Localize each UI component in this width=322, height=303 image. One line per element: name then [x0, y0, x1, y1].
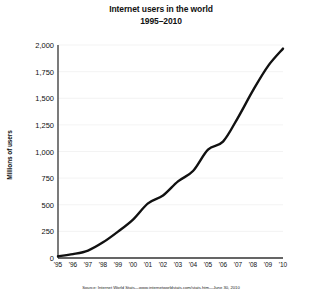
y-tick-label: 750 [14, 174, 54, 183]
y-tick-label: 1,750 [14, 67, 54, 76]
x-axis-tick-labels: '95'96'97'98'99'00'01'02'03'04'05'06'07'… [0, 261, 322, 273]
y-tick-label: 1,000 [14, 147, 54, 156]
chart-figure: Internet users in the world 1995–2010 Mi… [0, 0, 322, 303]
x-tick-label: '05 [204, 261, 212, 268]
x-tick-label: '98 [99, 261, 107, 268]
x-tick-label: '07 [234, 261, 242, 268]
x-tick-label: '95 [54, 261, 62, 268]
y-tick-label: 500 [14, 200, 54, 209]
x-tick-label: '10 [279, 261, 287, 268]
x-tick-label: '04 [189, 261, 197, 268]
x-tick-label: '00 [129, 261, 137, 268]
y-axis-tick-labels: 02505007501,0001,2501,5001,7502,000 [12, 0, 54, 303]
x-tick-label: '09 [264, 261, 272, 268]
data-series-line [58, 49, 283, 257]
x-tick-label: '02 [159, 261, 167, 268]
y-tick-label: 250 [14, 227, 54, 236]
x-tick-label: '03 [174, 261, 182, 268]
source-note: Source: Internet World Stats—www.interne… [0, 285, 322, 290]
y-tick-label: 1,250 [14, 120, 54, 129]
x-tick-label: '01 [144, 261, 152, 268]
y-tick-label: 1,500 [14, 94, 54, 103]
gridlines [58, 45, 283, 258]
x-tick-label: '99 [114, 261, 122, 268]
x-tick-label: '96 [69, 261, 77, 268]
x-tick-label: '97 [84, 261, 92, 268]
y-tick-label: 2,000 [14, 41, 54, 50]
x-tick-label: '08 [249, 261, 257, 268]
x-tick-label: '06 [219, 261, 227, 268]
